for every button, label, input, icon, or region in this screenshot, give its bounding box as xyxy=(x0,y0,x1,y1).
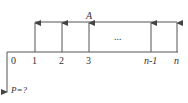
cash-flow-diagram: A ... 0 1 2 3 n-1 n P=? xyxy=(0,0,188,103)
ellipsis-label: ... xyxy=(114,31,122,42)
period-label-1: 1 xyxy=(32,55,37,66)
period-label-3: 3 xyxy=(86,55,91,66)
period-label-0: 0 xyxy=(11,55,16,66)
present-value-label: P=? xyxy=(10,85,28,95)
period-label-n-1: n-1 xyxy=(144,55,157,66)
annuity-label: A xyxy=(85,10,93,21)
period-label-n: n xyxy=(174,55,179,66)
period-label-2: 2 xyxy=(59,55,64,66)
